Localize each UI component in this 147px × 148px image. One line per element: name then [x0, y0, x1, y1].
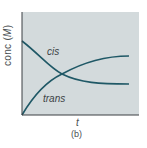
y-axis-unit: M [2, 28, 13, 37]
y-axis-label-text: conc ( [2, 37, 13, 66]
chart-svg [0, 0, 147, 148]
panel-label: (b) [71, 129, 82, 139]
y-axis-label-close: ) [2, 25, 13, 29]
trans-label: trans [43, 93, 65, 104]
cis-curve [22, 41, 129, 84]
trans-curve [22, 56, 129, 115]
x-axis-label: t [76, 117, 79, 128]
cis-label: cis [47, 46, 59, 57]
y-axis-label: conc (M) [2, 25, 13, 66]
